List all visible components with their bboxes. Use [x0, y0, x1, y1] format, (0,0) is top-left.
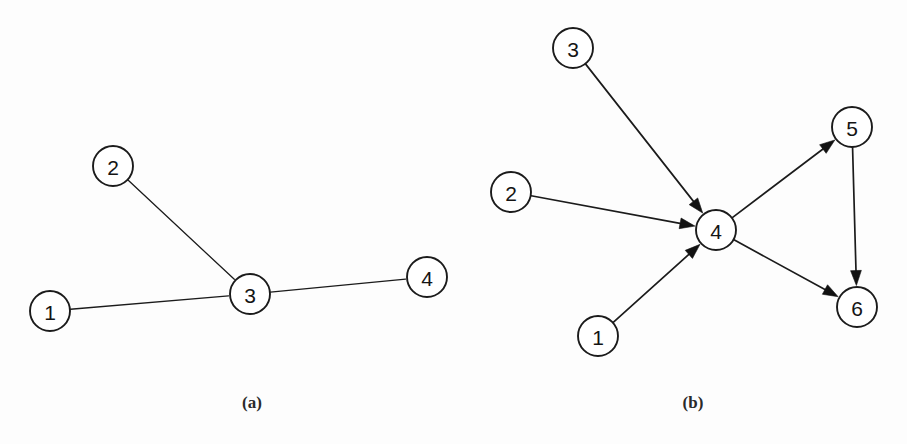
node-label-1: 1 — [44, 301, 56, 324]
node-panel-a-1[interactable]: 1 — [30, 291, 70, 331]
node-label-4: 4 — [710, 220, 722, 243]
node-panel-b-1[interactable]: 1 — [578, 316, 618, 356]
node-label-2: 2 — [107, 156, 119, 179]
edge-b4-to-b5 — [732, 145, 828, 218]
node-panel-a-4[interactable]: 4 — [407, 257, 447, 297]
graph-diagram-canvas: 1234123456 — [0, 0, 907, 444]
node-label-1: 1 — [592, 326, 604, 349]
arrowhead-b2-to-b4 — [679, 218, 695, 229]
node-panel-b-3[interactable]: 3 — [553, 28, 593, 68]
edges-layer — [70, 64, 856, 322]
node-label-4: 4 — [421, 267, 433, 290]
edge-b4-to-b6 — [734, 240, 831, 293]
nodes-layer: 1234123456 — [30, 28, 877, 356]
panel-b-caption: (b) — [648, 393, 738, 413]
arrowhead-b5-to-b6 — [851, 270, 862, 285]
node-panel-b-5[interactable]: 5 — [832, 107, 872, 147]
node-panel-b-4[interactable]: 4 — [696, 210, 736, 250]
panel-a-caption: (a) — [207, 393, 297, 413]
node-label-3: 3 — [567, 38, 579, 61]
edge-b2-to-b4 — [531, 196, 687, 225]
node-label-6: 6 — [851, 297, 863, 320]
node-panel-a-2[interactable]: 2 — [93, 146, 133, 186]
arrowhead-b4-to-b5 — [820, 140, 835, 153]
arrowhead-b3-to-b4 — [689, 198, 703, 213]
node-panel-a-3[interactable]: 3 — [230, 274, 270, 314]
edge-a1-to-a3 — [70, 296, 228, 309]
edge-b5-to-b6 — [853, 147, 857, 277]
node-label-5: 5 — [846, 117, 858, 140]
edge-a3-to-a4 — [270, 279, 405, 292]
edge-a2-to-a3 — [128, 180, 234, 279]
edge-b1-to-b4 — [613, 250, 694, 322]
node-panel-b-2[interactable]: 2 — [491, 172, 531, 212]
node-label-2: 2 — [505, 182, 517, 205]
node-panel-b-6[interactable]: 6 — [837, 287, 877, 327]
edge-b3-to-b4 — [586, 64, 698, 206]
node-label-3: 3 — [244, 284, 256, 307]
arrowhead-b4-to-b6 — [822, 285, 838, 297]
figure-container: 1234123456 (a) (b) — [0, 0, 907, 444]
